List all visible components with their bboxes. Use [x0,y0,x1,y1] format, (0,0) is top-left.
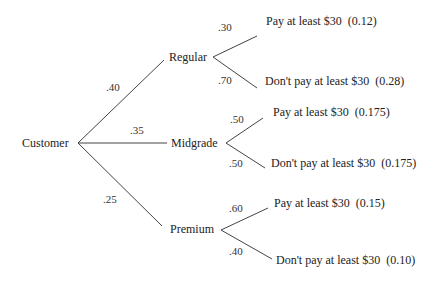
outcome-label: Pay at least $30 [273,105,349,119]
edge-regular-pay [213,36,257,57]
outcome-midgrade-dontpay: Don't pay at least $30 (0.175) [271,156,416,170]
prob-regular-dontpay: .70 [218,73,232,87]
edge-customer-regular [78,60,164,143]
node-midgrade: Midgrade [171,136,218,150]
node-customer: Customer [22,136,69,150]
node-premium: Premium [170,222,214,236]
outcome-label: Don't pay at least $30 [276,253,380,267]
joint-probability: (0.28) [375,74,404,88]
outcome-label: Pay at least $30 [274,196,350,210]
joint-probability: (0.10) [386,253,415,267]
outcome-label: Don't pay at least $30 [265,74,369,88]
prob-premium-pay: .60 [229,201,243,215]
joint-probability: (0.15) [356,196,385,210]
prob-premium: .25 [103,192,117,206]
outcome-label: Don't pay at least $30 [271,156,375,170]
joint-probability: (0.175) [355,105,390,119]
outcome-regular-pay: Pay at least $30 (0.12) [266,14,377,28]
prob-midgrade-dontpay: .50 [229,156,243,170]
prob-midgrade-pay: .50 [230,112,244,126]
probability-tree-diagram: Customer Regular Midgrade Premium .40 .3… [0,0,439,282]
outcome-regular-dontpay: Don't pay at least $30 (0.28) [265,74,404,88]
joint-probability: (0.175) [381,156,416,170]
prob-premium-dontpay: .40 [229,244,243,258]
node-regular: Regular [169,50,207,64]
joint-probability: (0.12) [348,14,377,28]
outcome-label: Pay at least $30 [266,14,342,28]
edge-customer-premium [78,143,162,226]
outcome-midgrade-pay: Pay at least $30 (0.175) [273,105,390,119]
outcome-premium-pay: Pay at least $30 (0.15) [274,196,385,210]
outcome-premium-dontpay: Don't pay at least $30 (0.10) [276,253,415,267]
prob-regular-pay: .30 [218,20,232,34]
prob-regular: .40 [106,80,120,94]
prob-midgrade: .35 [130,123,144,137]
